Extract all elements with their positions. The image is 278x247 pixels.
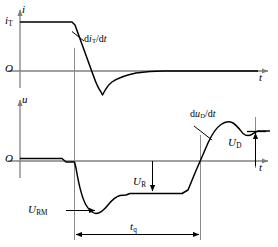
UD-sub: D: [236, 142, 241, 150]
iT-sub: T: [8, 20, 13, 28]
didt-suffix: /d: [96, 33, 104, 44]
dudt-tail: t: [213, 108, 216, 119]
URM-sub: RM: [36, 209, 47, 217]
voltage-origin-label: O: [5, 153, 13, 164]
UR-sub: R: [141, 181, 146, 189]
current-axis-label: i: [22, 4, 25, 15]
voltage-time-label: t: [259, 162, 262, 173]
du-dt-label: duD/dt: [190, 109, 216, 120]
current-panel: [8, 10, 268, 122]
current-time-label: t: [259, 72, 262, 83]
voltage-panel: [8, 100, 270, 240]
current-curve: [20, 22, 258, 95]
current-level-label: iT: [5, 15, 13, 28]
tq-label: tq: [130, 221, 137, 234]
UR-label: UR: [133, 176, 146, 189]
voltage-axis-label: u: [22, 94, 28, 105]
thyristor-turnoff-waveform-figure: i iT O t diT/dt u O t duD/dt UR UD URM t…: [0, 0, 278, 247]
di-dt-label: diT/dt: [84, 34, 107, 45]
current-origin-label: O: [5, 63, 13, 74]
dudt-suffix: /d: [205, 108, 213, 119]
didt-tail: t: [104, 33, 107, 44]
URM-label: URM: [28, 204, 47, 217]
URM-base: U: [28, 203, 36, 215]
tq-sub: q: [133, 226, 137, 234]
UD-label: UD: [228, 137, 241, 150]
du-dt-leader: [194, 126, 212, 140]
UD-base: U: [228, 136, 236, 148]
UR-base: U: [133, 175, 141, 187]
